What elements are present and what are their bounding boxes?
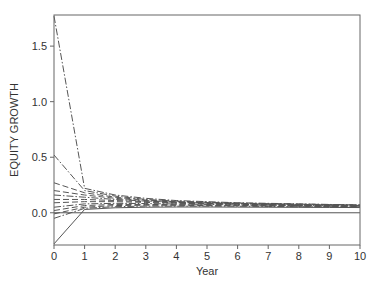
x-tick-label: 7 [265,250,271,262]
x-tick-label: 9 [326,250,332,262]
x-tick-label: 2 [112,250,118,262]
x-tick-label: 5 [204,250,210,262]
x-tick-label: 4 [173,250,179,262]
y-axis: 0.00.51.01.5 [32,40,54,219]
plot-frame [54,15,360,245]
x-tick-label: 10 [354,250,366,262]
series-line-s11 [54,206,360,218]
y-tick-label: 1.0 [32,96,47,108]
y-axis-title: EQUITY GROWTH [8,83,20,177]
series-line-s1 [54,16,360,205]
x-tick-label: 6 [235,250,241,262]
x-tick-label: 1 [82,250,88,262]
x-tick-label: 0 [51,250,57,262]
y-tick-label: 0.0 [32,207,47,219]
x-tick-label: 8 [296,250,302,262]
y-tick-label: 1.5 [32,40,47,52]
x-tick-label: 3 [143,250,149,262]
data-series-group [54,16,360,244]
x-axis: 012345678910 [51,245,366,262]
line-chart: 012345678910 0.00.51.01.5 Year EQUITY GR… [0,0,379,284]
x-axis-title: Year [196,265,219,277]
y-tick-label: 0.5 [32,151,47,163]
series-line-s2 [54,155,360,205]
